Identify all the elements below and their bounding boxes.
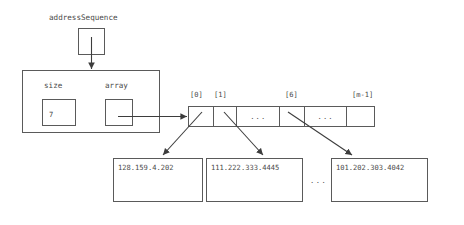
- connector-arrows: [0, 0, 464, 225]
- arrow-cell-6-to-string-2: [288, 112, 352, 155]
- arrow-cell-1-to-string-1: [224, 112, 263, 155]
- arrow-cell-0-to-string-0: [163, 112, 202, 155]
- diagram-canvas: addressSequence size 7 array [0] [1] [6]…: [0, 0, 464, 225]
